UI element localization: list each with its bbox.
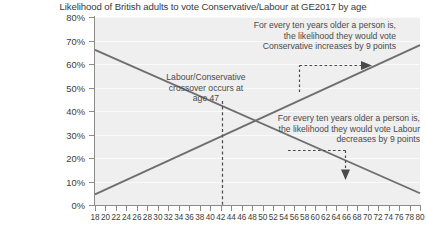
labour-trend-note: For every ten years older a person is, t…	[228, 113, 420, 145]
chart-container: Likelihood of British adults to vote Con…	[0, 0, 426, 233]
conservative-trend-note: For every ten years older a person is, t…	[200, 20, 396, 52]
crossover-note: Labour/Conservative crossover occurs at …	[140, 72, 272, 104]
labour-callout-arrowhead	[341, 170, 350, 181]
conservative-callout-arrowhead	[361, 61, 372, 70]
